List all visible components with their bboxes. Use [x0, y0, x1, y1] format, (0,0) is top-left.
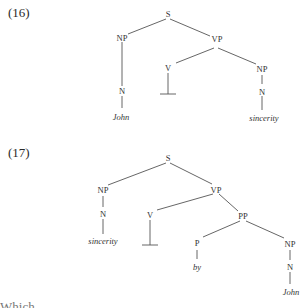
word-john: John: [283, 287, 300, 297]
node-n: N: [119, 86, 125, 96]
tree-17: S NP VP N V PP P NP N sincerity by John: [88, 153, 299, 297]
node-vp: VP: [212, 34, 223, 44]
truncated-body-text: Which ... ... ...: [0, 300, 306, 308]
node-np: NP: [117, 33, 128, 43]
node-n2: N: [259, 87, 265, 97]
syntax-trees: S NP VP N V NP N John sincerity S NP VP …: [0, 0, 306, 308]
node-s: S: [166, 153, 171, 163]
node-n: N: [100, 209, 106, 219]
word-by: by: [193, 262, 201, 272]
word-sincerity: sincerity: [249, 113, 278, 123]
node-n2: N: [287, 262, 293, 272]
node-s: S: [166, 9, 171, 19]
node-v: V: [165, 63, 172, 73]
tree-16: S NP VP N V NP N John sincerity: [113, 9, 279, 123]
node-np2: NP: [257, 64, 268, 74]
node-vp: VP: [211, 185, 222, 195]
word-john: John: [113, 112, 130, 122]
node-np: NP: [98, 185, 109, 195]
node-pp: PP: [238, 211, 248, 221]
node-v: V: [147, 210, 154, 220]
word-sincerity: sincerity: [88, 236, 117, 246]
node-np2: NP: [285, 239, 296, 249]
node-p: P: [195, 238, 200, 248]
